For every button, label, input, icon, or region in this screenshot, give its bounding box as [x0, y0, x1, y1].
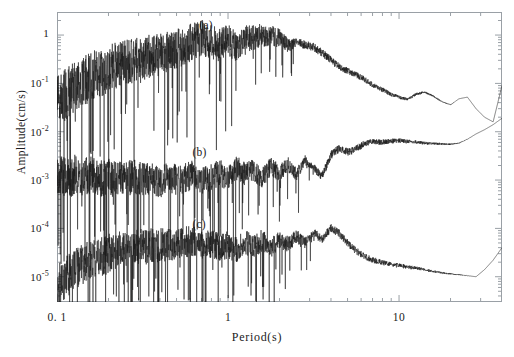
y-tick-label-5: 10-5 [30, 269, 49, 283]
y-tick-label-0: 1 [43, 27, 49, 39]
curve-label-a: (a) [199, 19, 212, 31]
y-tick-label-2: 10-2 [30, 124, 49, 138]
figure-root: (a) (b) (c) 110-110-210-310-410-5 0. 111… [0, 0, 514, 357]
x-axis-title: Period(s) [0, 330, 514, 345]
curve-label-b: (b) [193, 146, 207, 158]
y-tick-label-4: 10-4 [30, 220, 49, 234]
x-tick-label-1: 1 [225, 311, 231, 323]
spectrum-traces [57, 12, 502, 302]
trace-c [57, 224, 502, 302]
y-tick-label-1: 10-1 [30, 75, 49, 89]
x-tick-label-2: 10 [393, 311, 406, 323]
x-tick-label-0: 0. 1 [47, 311, 66, 323]
y-tick-label-3: 10-3 [30, 172, 49, 186]
plot-area: (a) (b) (c) [57, 12, 502, 302]
curve-label-c: (c) [193, 218, 206, 230]
y-axis-title: Amplitude(cm/s) [15, 57, 27, 207]
